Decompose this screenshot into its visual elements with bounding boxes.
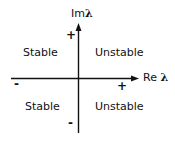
region-upper-right: Unstable — [95, 47, 144, 58]
imaginary-axis-label: Imλ — [71, 8, 93, 19]
stability-diagram: Imλ Re λ + - + - Stable Unstable Stable … — [0, 0, 175, 143]
real-axis-label-prefix: Re — [143, 71, 157, 84]
real-positive-sign: + — [117, 80, 127, 92]
lambda-symbol: λ — [160, 71, 168, 84]
region-lower-right: Unstable — [95, 101, 144, 112]
real-axis-label: Re λ — [143, 72, 168, 83]
imaginary-axis-label-prefix: Im — [71, 7, 85, 20]
imaginary-axis-arrow-icon — [76, 23, 82, 31]
imaginary-positive-sign: + — [66, 29, 76, 41]
real-axis-arrow-icon — [131, 76, 139, 82]
region-upper-left: Stable — [23, 47, 58, 58]
lambda-symbol: λ — [85, 7, 93, 20]
region-lower-left: Stable — [25, 101, 60, 112]
imaginary-negative-sign: - — [68, 117, 73, 129]
real-negative-sign: - — [14, 78, 19, 90]
